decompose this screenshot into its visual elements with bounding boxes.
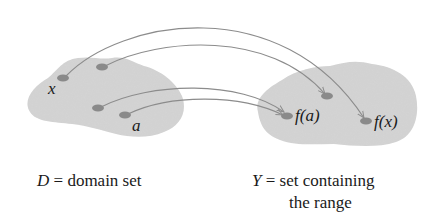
codomain-set-blob [257, 62, 417, 146]
point-fa [281, 113, 293, 120]
label-fx: f(x) [374, 113, 398, 130]
label-a: a [132, 117, 141, 134]
codomain-caption-line1: set containing [280, 171, 375, 190]
domain-caption-text: domain set [67, 171, 141, 190]
point-codomain-1 [321, 93, 333, 100]
point-domain-2 [96, 64, 108, 71]
label-x: x [48, 80, 56, 97]
domain-symbol: D [37, 171, 49, 190]
domain-equals: = [49, 171, 67, 190]
point-domain-3 [92, 105, 104, 112]
codomain-caption-line2: the range [289, 194, 352, 211]
point-x [57, 75, 69, 82]
point-a [119, 112, 131, 119]
codomain-equals: = [261, 171, 279, 190]
function-diagram: x a f(a) f(x) D = domain set Y = set con… [0, 0, 441, 218]
domain-caption: D = domain set [37, 172, 142, 189]
point-fx [360, 118, 372, 125]
codomain-caption: Y = set containing [252, 172, 374, 189]
label-fa: f(a) [295, 107, 320, 124]
